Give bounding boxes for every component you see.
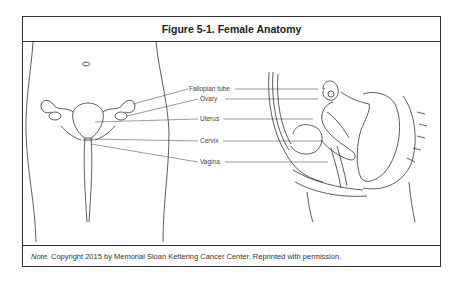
figure-title: Figure 5-1. Female Anatomy: [162, 23, 302, 35]
figure-frame: Figure 5-1. Female Anatomy: [22, 16, 441, 267]
label-cervix: Cervix: [200, 137, 219, 144]
side-view-illustration: [269, 72, 427, 222]
figure-title-bar: Figure 5-1. Female Anatomy: [23, 17, 440, 42]
label-vagina: Vagina: [200, 158, 220, 166]
label-fallopian-tube: Fallopian tube: [189, 85, 230, 93]
label-uterus: Uterus: [200, 115, 220, 122]
figure-note: Note. Copyright 2015 by Memorial Sloan K…: [31, 252, 341, 261]
anatomy-illustration: Fallopian tube Ovary Uterus Cervix Vagin…: [23, 42, 440, 247]
note-prefix: Note.: [31, 252, 49, 261]
note-text: Copyright 2015 by Memorial Sloan Ketteri…: [49, 252, 341, 261]
figure-note-bar: Note. Copyright 2015 by Memorial Sloan K…: [23, 245, 440, 266]
label-ovary: Ovary: [200, 95, 218, 103]
front-view-illustration: [26, 42, 169, 242]
anatomy-labels: Fallopian tube Ovary Uterus Cervix Vagin…: [189, 85, 230, 166]
